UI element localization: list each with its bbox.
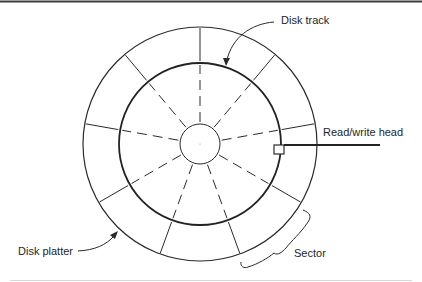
hub-center-dot — [199, 143, 200, 144]
disk-diagram: Disk track Read/write head Disk platter … — [0, 0, 422, 282]
sector-divider-outer — [160, 222, 171, 253]
sector-divider-outer — [282, 124, 314, 130]
sector-divider-inner — [222, 130, 278, 140]
sector-dividers — [86, 28, 314, 253]
disk-track-arrow — [227, 22, 274, 60]
sector-divider-outer — [253, 55, 274, 80]
sector-divider-inner — [173, 165, 192, 219]
read-write-head — [274, 145, 284, 154]
sector-divider-inner — [149, 83, 186, 127]
sector-divider-inner — [214, 83, 251, 127]
disk-platter-arrow — [78, 236, 114, 251]
sector-divider-outer — [228, 222, 239, 253]
sector-divider-inner — [132, 155, 181, 184]
arrowhead-icon — [110, 231, 118, 239]
sector-divider-outer — [125, 55, 146, 80]
read-write-head-label: Read/write head — [323, 126, 403, 138]
disk-track-label: Disk track — [281, 14, 330, 26]
sector-divider-outer — [86, 124, 118, 130]
sector-divider-inner — [219, 155, 268, 184]
sector-divider-outer — [100, 186, 129, 203]
sector-divider-inner — [122, 130, 178, 140]
disk-platter-label: Disk platter — [18, 245, 73, 257]
sector-label: Sector — [294, 247, 326, 259]
sector-divider-inner — [208, 165, 227, 219]
arrowhead-icon — [223, 58, 230, 66]
sector-divider-outer — [272, 186, 301, 203]
